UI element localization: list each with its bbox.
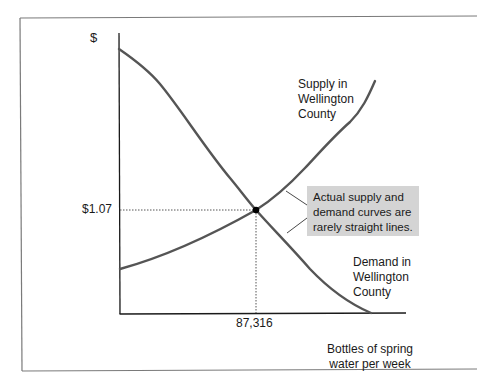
frame-top [20, 16, 477, 18]
x-axis-label: Bottles of spring water per week [320, 342, 420, 372]
supply-label-line1: Supply in [298, 77, 354, 92]
x-axis [120, 313, 407, 314]
x-axis-label-line2: water per week [320, 357, 420, 372]
supply-curve-label: Supply in Wellington County [298, 77, 354, 122]
price-tick-label: $1.07 [82, 202, 112, 217]
callout-box: Actual supply and demand curves are rare… [307, 186, 419, 236]
callout-line2: demand curves are [313, 205, 419, 220]
callout-leader-supply [286, 191, 307, 205]
equilibrium-point [253, 207, 260, 214]
quantity-tick-label: 87,316 [236, 316, 273, 331]
demand-label-line1: Demand in [353, 255, 411, 270]
callout-leader-demand [287, 218, 307, 233]
demand-curve-label: Demand in Wellington County [353, 255, 411, 300]
demand-label-line3: County [353, 285, 411, 300]
frame-left [20, 18, 22, 371]
y-axis-label: $ [90, 30, 97, 45]
supply-label-line3: County [298, 107, 354, 122]
demand-label-line2: Wellington [353, 270, 411, 285]
callout-line3: rarely straight lines. [313, 220, 419, 235]
x-axis-label-line1: Bottles of spring [320, 342, 420, 357]
callout-line1: Actual supply and [313, 190, 419, 205]
supply-label-line2: Wellington [298, 92, 354, 107]
y-axis [119, 33, 120, 314]
